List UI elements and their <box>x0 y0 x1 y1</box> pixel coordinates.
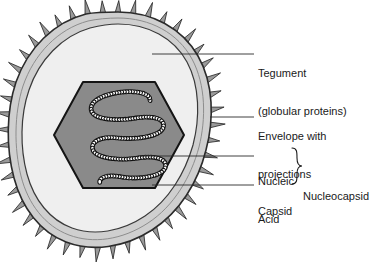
label-capsid: Capsid <box>258 180 292 243</box>
label-nucleocapsid: Nucleocapsid <box>303 165 369 228</box>
label-nucleocapsid-line1: Nucleocapsid <box>303 190 369 203</box>
label-tegument-line1: Tegument <box>258 67 347 80</box>
label-envelope-line1: Envelope with <box>258 130 327 143</box>
label-capsid-line1: Capsid <box>258 205 292 218</box>
figure-canvas: Tegument (globular proteins) Envelope wi… <box>0 0 382 266</box>
nucleic-acid-bead <box>98 179 102 184</box>
